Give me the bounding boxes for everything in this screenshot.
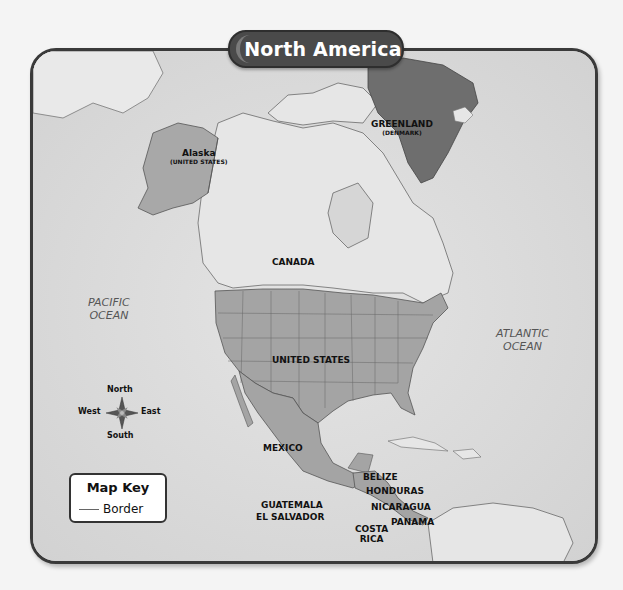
label-united-states: UNITED STATES (272, 355, 350, 365)
compass-rose-icon (104, 395, 140, 431)
label-belize: BELIZE (363, 472, 398, 482)
label-costa-rica: COSTA RICA (355, 524, 388, 544)
label-canada: CANADA (272, 257, 315, 267)
map-key-title: Map Key (71, 480, 165, 495)
map-key: Map Key Border (69, 473, 167, 523)
compass-north: North (107, 385, 133, 394)
label-mexico: MEXICO (263, 443, 303, 453)
label-greenland: GREENLAND (DENMARK) (371, 119, 433, 136)
label-el-salvador: EL SALVADOR (256, 512, 324, 522)
label-pacific-ocean: PACIFIC OCEAN (88, 296, 130, 322)
label-atlantic-ocean: ATLANTIC OCEAN (496, 327, 549, 353)
map-title-banner: North America (228, 30, 404, 68)
label-honduras: HONDURAS (366, 486, 424, 496)
label-nicaragua: NICARAGUA (371, 502, 431, 512)
map-key-item-border: Border (79, 502, 143, 516)
map-title: North America (244, 38, 402, 60)
compass-south: South (107, 431, 133, 440)
label-alaska: Alaska (UNITED STATES) (170, 148, 228, 165)
label-panama: PANAMA (391, 517, 434, 527)
compass-east: East (141, 407, 160, 416)
border-line-icon (79, 509, 99, 510)
compass-rose: North West East South (78, 385, 168, 443)
label-guatemala: GUATEMALA (261, 500, 323, 510)
compass-west: West (78, 407, 101, 416)
